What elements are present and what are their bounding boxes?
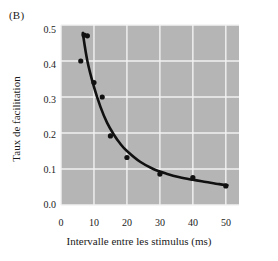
plot-background-rect <box>61 25 239 205</box>
y-tick-label: 0.4 <box>26 60 56 70</box>
y-tick-label: 0.1 <box>26 165 56 175</box>
y-tick-label: 0.5 <box>26 25 56 35</box>
x-tick-label: 50 <box>214 218 238 228</box>
data-point <box>124 155 129 160</box>
x-tick-label: 20 <box>115 218 139 228</box>
data-point <box>223 183 228 188</box>
data-point <box>100 94 105 99</box>
data-point <box>190 175 195 180</box>
x-tick-label: 30 <box>148 218 172 228</box>
data-point <box>157 171 162 176</box>
x-tick-label: 10 <box>82 218 106 228</box>
y-tick-label: 0.0 <box>26 200 56 210</box>
data-point <box>78 58 83 63</box>
figure-panel-b: (B) Taux de facilitation Intervalle entr… <box>0 0 278 261</box>
plot-background <box>61 25 239 205</box>
data-point <box>108 133 113 138</box>
y-tick-label: 0.2 <box>26 130 56 140</box>
data-point <box>85 33 90 38</box>
panel-label: (B) <box>9 9 24 21</box>
y-axis-title: Taux de facilitation <box>10 59 22 179</box>
y-tick-label: 0.3 <box>26 95 56 105</box>
x-tick-label: 0 <box>49 218 73 228</box>
x-axis-tick-labels: 0 10 20 30 40 50 <box>0 218 278 232</box>
x-tick-label: 40 <box>181 218 205 228</box>
data-point <box>91 80 96 85</box>
